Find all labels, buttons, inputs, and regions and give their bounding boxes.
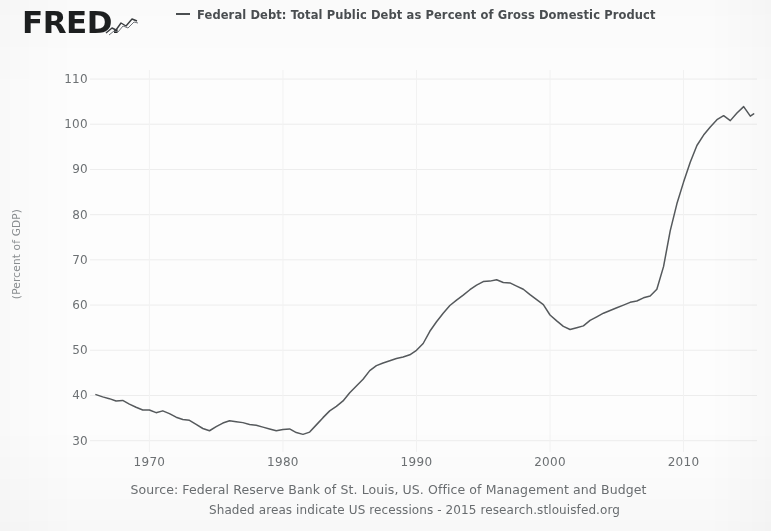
fred-logo-text: FRED (22, 4, 112, 40)
x-tick-label: 1990 (386, 455, 446, 469)
line-swatch-icon (176, 8, 190, 19)
legend-label: Federal Debt: Total Public Debt as Perce… (197, 8, 656, 23)
source-line: Source: Federal Reserve Bank of St. Loui… (0, 482, 771, 497)
gridlines (90, 70, 757, 452)
plot-canvas (0, 62, 771, 480)
sparkline-icon (105, 16, 139, 36)
x-tick-label: 2000 (520, 455, 580, 469)
x-tick-label: 2010 (654, 455, 714, 469)
x-tick-label: 1970 (119, 455, 179, 469)
fred-chart-page: FRED. Federal Debt: Total Public Debt as… (0, 0, 771, 531)
data-line (96, 107, 754, 435)
chart-area: (Percent of GDP) 30405060708090100110 19… (0, 62, 771, 480)
chart-header: FRED. Federal Debt: Total Public Debt as… (0, 0, 771, 62)
recession-note: Shaded areas indicate US recessions - 20… (0, 503, 771, 517)
x-tick-label: 1980 (253, 455, 313, 469)
chart-footer: Source: Federal Reserve Bank of St. Loui… (0, 482, 771, 517)
data-series-group (96, 107, 754, 435)
legend: Federal Debt: Total Public Debt as Perce… (176, 8, 696, 23)
